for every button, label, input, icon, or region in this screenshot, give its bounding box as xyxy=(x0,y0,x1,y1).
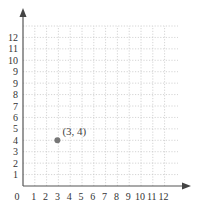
y-axis-arrow-icon xyxy=(20,8,27,17)
x-tick-label: 9 xyxy=(126,191,131,202)
y-tick-label: 2 xyxy=(13,158,18,169)
y-tick-label: 3 xyxy=(13,146,18,157)
data-point xyxy=(54,137,60,143)
y-tick-label: 9 xyxy=(13,66,18,77)
grid xyxy=(23,26,178,186)
y-tick-label: 6 xyxy=(13,112,18,123)
y-tick-labels: 1234567899101112 xyxy=(8,32,18,180)
y-tick-label: 9 xyxy=(13,78,18,89)
x-axis-arrow-icon xyxy=(182,183,191,190)
origin-label: 0 xyxy=(15,191,20,202)
y-tick-label: 11 xyxy=(8,43,18,54)
x-tick-label: 8 xyxy=(114,191,119,202)
x-tick-labels: 0 123456789101112 xyxy=(15,191,169,202)
x-tick-label: 10 xyxy=(135,191,145,202)
y-tick-label: 4 xyxy=(13,135,18,146)
y-tick-label: 7 xyxy=(13,101,18,112)
y-tick-label: 1 xyxy=(13,169,18,180)
x-tick-label: 5 xyxy=(79,191,84,202)
x-tick-label: 11 xyxy=(147,191,157,202)
y-tick-label: 10 xyxy=(8,55,18,66)
x-tick-label: 6 xyxy=(90,191,95,202)
y-tick-label: 5 xyxy=(13,123,18,134)
coordinate-plane: 1234567899101112 0 123456789101112 (3, 4… xyxy=(0,0,199,209)
y-tick-label: 12 xyxy=(8,32,18,43)
x-tick-label: 12 xyxy=(159,191,169,202)
x-tick-label: 7 xyxy=(102,191,107,202)
x-tick-label: 1 xyxy=(31,191,36,202)
point-label: (3, 4) xyxy=(62,125,86,138)
x-tick-label: 4 xyxy=(67,191,72,202)
x-tick-label: 3 xyxy=(55,191,60,202)
y-tick-label: 8 xyxy=(13,89,18,100)
x-tick-label: 2 xyxy=(43,191,48,202)
